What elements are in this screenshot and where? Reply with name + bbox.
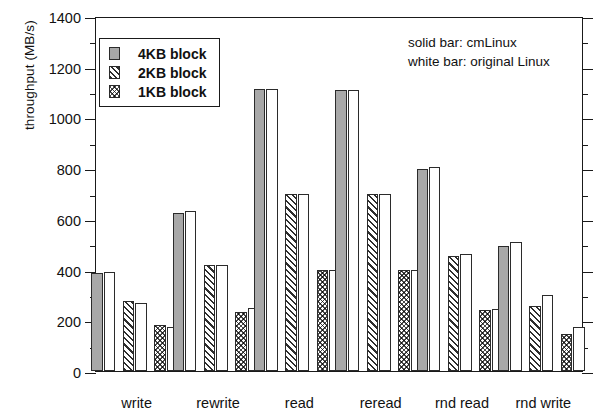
bar-rnd-read-3 (460, 254, 472, 371)
bar-write-2 (123, 301, 135, 371)
bar-rewrite-4 (235, 312, 247, 371)
bar-rnd-read-1 (429, 167, 441, 371)
y-tick-800 (85, 170, 96, 171)
bar-rewrite-1 (185, 211, 197, 371)
y-tick-label-1200: 1200 (49, 61, 81, 77)
bar-rewrite-2 (204, 265, 216, 372)
legend-item-1kb: 1KB block (109, 82, 206, 101)
bar-write-3 (135, 303, 147, 371)
bar-rnd-write-0 (498, 246, 510, 371)
x-axis-label-rnd-read: rnd read (435, 395, 489, 411)
legend-label-1kb: 1KB block (138, 84, 206, 100)
bar-rnd-write-3 (542, 295, 554, 371)
legend-item-4kb: 4KB block (109, 44, 206, 63)
legend-label-2kb: 2KB block (138, 65, 206, 81)
x-axis-label-write: write (121, 395, 152, 411)
bar-rewrite-3 (216, 265, 228, 372)
bar-rnd-write-2 (529, 306, 541, 371)
legend-item-2kb: 2KB block (109, 63, 206, 82)
bar-read-4 (317, 270, 329, 371)
x-axis-label-rewrite: rewrite (196, 395, 240, 411)
bar-read-2 (285, 194, 297, 372)
y-tick-right-0 (582, 373, 593, 374)
bar-rnd-write-5 (573, 327, 585, 371)
y-tick-label-0: 0 (73, 365, 81, 381)
y-tick-label-800: 800 (57, 162, 81, 178)
chart-annotation: solid bar: cmLinux white bar: original L… (408, 33, 550, 71)
y-tick-0 (85, 373, 96, 374)
bar-reread-3 (379, 194, 391, 371)
y-axis-title: throughput (MB/s) (22, 0, 37, 130)
bar-write-4 (154, 325, 166, 371)
bar-reread-0 (335, 90, 347, 371)
legend: 4KB block 2KB block 1KB block (99, 38, 220, 107)
bar-group-read (259, 18, 340, 371)
legend-label-4kb: 4KB block (138, 46, 206, 62)
bar-rewrite-0 (173, 213, 185, 371)
bar-rnd-read-2 (448, 256, 460, 371)
y-tick-600 (85, 221, 96, 222)
bar-read-0 (254, 89, 266, 371)
y-tick-label-1400: 1400 (49, 10, 81, 26)
y-tick-label-200: 200 (57, 314, 81, 330)
y-tick-1200 (85, 69, 96, 70)
bar-read-3 (298, 194, 310, 371)
legend-swatch-2kb-icon (109, 66, 120, 79)
bar-reread-2 (367, 194, 379, 371)
y-tick-1400 (85, 18, 96, 19)
y-tick-label-1000: 1000 (49, 111, 81, 127)
bar-reread-1 (348, 90, 360, 371)
bar-rnd-read-0 (417, 169, 429, 371)
y-tick-label-400: 400 (57, 264, 81, 280)
y-tick-1000 (85, 119, 96, 120)
bar-read-1 (266, 89, 278, 371)
bar-write-1 (104, 272, 116, 371)
annotation-line-solid: solid bar: cmLinux (408, 33, 550, 52)
chart-figure: throughput (MB/s) 0200400600800100012001… (0, 0, 598, 416)
x-axis-label-rnd-write: rnd write (516, 395, 572, 411)
annotation-line-white: white bar: original Linux (408, 52, 550, 71)
legend-swatch-1kb-icon (109, 85, 120, 98)
bar-rnd-write-1 (510, 242, 522, 371)
bar-write-0 (91, 273, 103, 371)
bar-reread-4 (398, 270, 410, 371)
bar-rnd-read-4 (479, 310, 491, 371)
legend-swatch-4kb-icon (109, 47, 120, 60)
y-tick-label-600: 600 (57, 213, 81, 229)
x-axis-label-read: read (285, 395, 314, 411)
bar-rnd-write-4 (561, 334, 573, 371)
x-axis-label-reread: reread (360, 395, 402, 411)
